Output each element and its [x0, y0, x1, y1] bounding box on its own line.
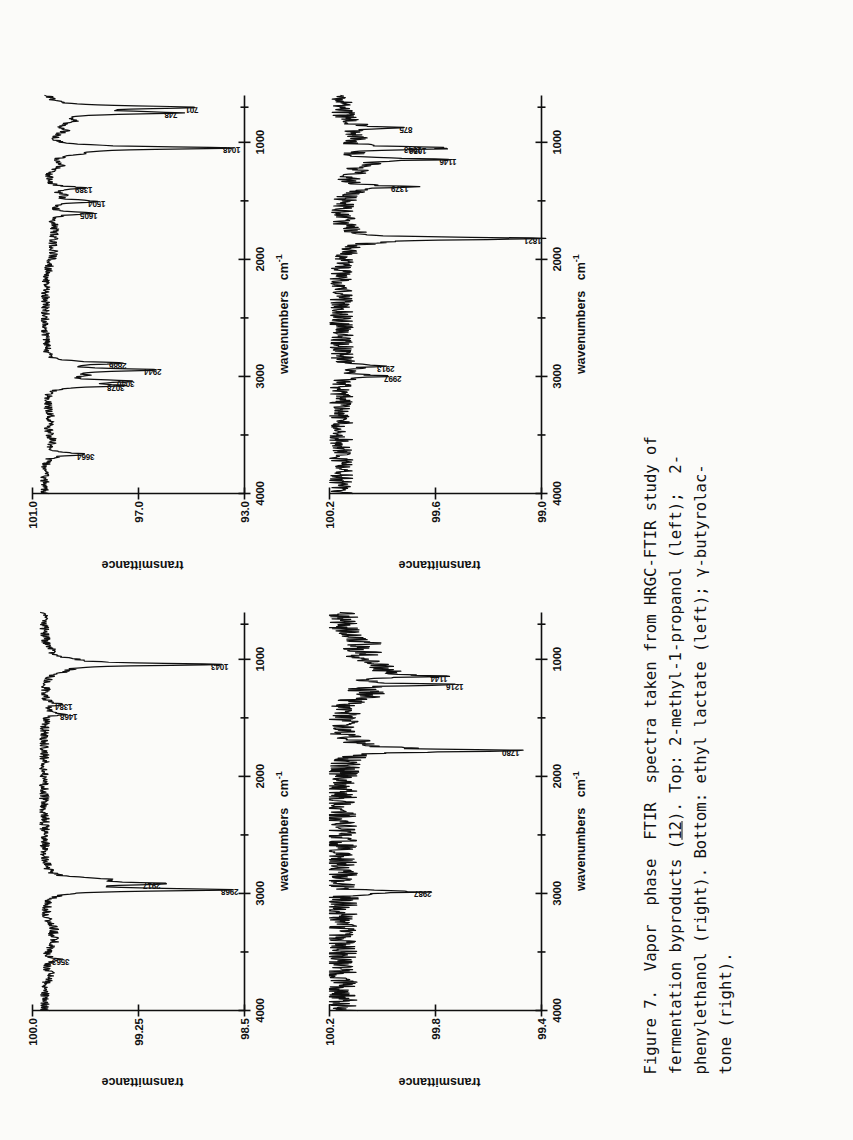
- x-axis-tick-label: 1000: [253, 130, 265, 154]
- peak-label: 3563: [52, 956, 69, 965]
- plot-axes: [329, 95, 541, 493]
- x-axis-title-text: wavenumbers: [573, 290, 587, 373]
- y-axis-tick-label: 99.25: [132, 1018, 144, 1068]
- figure-stage: 4000300020001000100.099.2598.53563296829…: [0, 0, 853, 1140]
- peak-label: 1216: [446, 681, 463, 690]
- y-axis-tick-label: 99.8: [429, 1018, 441, 1068]
- x-axis-tick-label: 1000: [550, 647, 562, 671]
- spectrum-svg: [329, 95, 541, 493]
- y-axis-tick-label: 100.2: [323, 1018, 335, 1068]
- peak-label: 2997: [384, 373, 401, 382]
- spectrum-trace: [40, 95, 232, 493]
- caption-reference-12: 12: [666, 821, 684, 840]
- x-axis-units: cm-1: [573, 254, 587, 291]
- peak-label: 2944: [143, 366, 160, 375]
- y-axis-tick-label: 100.0: [26, 1018, 38, 1068]
- y-axis-tick-label: 97.0: [132, 501, 144, 551]
- peak-label: 701: [185, 104, 198, 113]
- caption-line-2: fermentation byproducts (12). Top: 2-met…: [663, 64, 688, 1074]
- peak-label: 2968: [220, 886, 237, 895]
- x-axis-tick-label: 4000: [253, 998, 265, 1022]
- x-axis-tick-label: 1000: [550, 130, 562, 154]
- caption-line-1: Figure 7. Vapor phase FTIR spectra taken…: [638, 64, 663, 1074]
- plot-area: 4000300020001000100.299.899.429871780121…: [329, 612, 541, 1010]
- plot-axes: [329, 612, 541, 1010]
- x-axis-tick-label: 2000: [550, 247, 562, 271]
- x-axis-title-text: wavenumbers: [276, 290, 290, 373]
- spectrum-panel-top-left: 4000300020001000100.099.2598.53563296829…: [26, 592, 311, 1072]
- x-axis-tick-label: 3000: [550, 881, 562, 905]
- y-axis-title: transmittance: [101, 557, 183, 571]
- x-axis-units-exponent: -1: [571, 771, 581, 779]
- x-axis-units: cm-1: [276, 254, 290, 291]
- x-axis-tick-label: 4000: [550, 481, 562, 505]
- x-axis-units: cm-1: [573, 771, 587, 808]
- plot-area: 4000300020001000101.097.093.036643078304…: [32, 95, 244, 493]
- spectrum-svg: [32, 95, 244, 493]
- x-axis-units-exponent: -1: [571, 254, 581, 262]
- spectrum-trace: [329, 95, 545, 493]
- figure-caption: Figure 7. Vapor phase FTIR spectra taken…: [638, 64, 738, 1074]
- y-axis-tick-label: 99.0: [535, 501, 547, 551]
- peak-label: 748: [164, 109, 177, 118]
- peak-label: 1504: [88, 198, 105, 207]
- peak-label: 2917: [143, 880, 160, 889]
- spectrum-panel-bottom-left: 4000300020001000100.299.899.429871780121…: [323, 592, 608, 1072]
- peak-label: 1379: [391, 183, 408, 192]
- x-axis-title: wavenumbers cm-1: [571, 254, 587, 374]
- spectrum-svg: [329, 612, 541, 1010]
- y-axis-title: transmittance: [398, 1074, 480, 1088]
- peak-label: 1468: [59, 711, 76, 720]
- peak-label: 1780: [501, 747, 518, 756]
- x-axis-tick-label: 2000: [550, 764, 562, 788]
- peak-label: 1048: [223, 144, 240, 153]
- y-axis-tick-label: 99.6: [429, 501, 441, 551]
- plot-area: 4000300020001000100.299.699.029972913182…: [329, 95, 541, 493]
- x-axis-title: wavenumbers cm-1: [274, 254, 290, 374]
- spectrum-trace: [39, 612, 232, 1010]
- peak-label: 875: [399, 124, 412, 133]
- peak-label: 1043: [211, 661, 228, 670]
- peak-label: 1389: [74, 184, 91, 193]
- y-axis-tick-label: 98.5: [238, 1018, 250, 1068]
- plot-axes: [32, 95, 244, 493]
- peak-label: 1821: [523, 235, 540, 244]
- x-axis-units-exponent: -1: [274, 771, 284, 779]
- x-axis-title-text: wavenumbers: [276, 807, 290, 890]
- x-axis-title: wavenumbers cm-1: [274, 771, 290, 891]
- x-axis-tick-label: 2000: [253, 247, 265, 271]
- x-axis-title-text: wavenumbers: [573, 807, 587, 890]
- x-axis-tick-label: 3000: [550, 364, 562, 388]
- caption-line-3: phenylethanol (right). Bottom: ethyl lac…: [688, 64, 713, 1074]
- x-axis-tick-label: 3000: [253, 881, 265, 905]
- y-axis-title: transmittance: [101, 1074, 183, 1088]
- y-axis-tick-label: 99.4: [535, 1018, 547, 1068]
- x-axis-tick-label: 3000: [253, 364, 265, 388]
- x-axis-tick-label: 4000: [550, 998, 562, 1022]
- x-axis-tick-label: 4000: [253, 481, 265, 505]
- peak-label: 1146: [439, 156, 456, 165]
- x-axis-tick-label: 2000: [253, 764, 265, 788]
- peak-label: 3040: [117, 378, 134, 387]
- peak-label: 2886: [109, 360, 126, 369]
- peak-label: 3664: [77, 451, 94, 460]
- y-axis-tick-label: 93.0: [238, 501, 250, 551]
- y-axis-tick-label: 101.0: [26, 501, 38, 551]
- x-axis-units-exponent: -1: [274, 254, 284, 262]
- x-axis-title: wavenumbers cm-1: [571, 771, 587, 891]
- peak-label: 1384: [55, 701, 72, 710]
- x-axis-tick-label: 1000: [253, 647, 265, 671]
- caption-line-4: tone (right).: [713, 64, 738, 1074]
- peak-label: 2987: [414, 888, 431, 897]
- spectra-grid: 4000300020001000100.099.2598.53563296829…: [18, 60, 618, 1080]
- spectrum-svg: [32, 612, 244, 1010]
- scanned-page: 4000300020001000100.099.2598.53563296829…: [0, 0, 853, 1140]
- peak-label: 1043: [403, 144, 420, 153]
- spectrum-panel-top-right: 4000300020001000101.097.093.036643078304…: [26, 75, 311, 555]
- peak-label: 1605: [80, 210, 97, 219]
- plot-area: 4000300020001000100.099.2598.53563296829…: [32, 612, 244, 1010]
- spectrum-trace: [329, 612, 523, 1010]
- x-axis-units: cm-1: [276, 771, 290, 808]
- figure-7: 4000300020001000100.099.2598.53563296829…: [18, 60, 838, 1080]
- spectrum-panel-bottom-right: 4000300020001000100.299.699.029972913182…: [323, 75, 608, 555]
